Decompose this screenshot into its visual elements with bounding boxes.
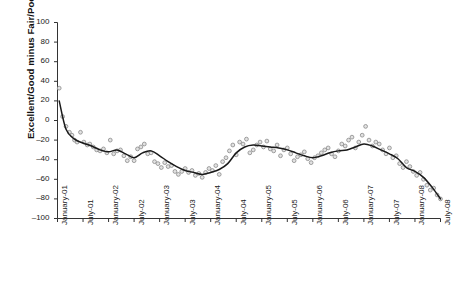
scatter-points [57, 86, 442, 201]
axis-lines [58, 23, 441, 219]
figure-container: Figure 3 Public Perceptions of the Econo… [0, 0, 455, 289]
x-axis-ticks [58, 219, 441, 223]
plot-area [0, 0, 455, 289]
y-axis-ticks [54, 23, 58, 219]
